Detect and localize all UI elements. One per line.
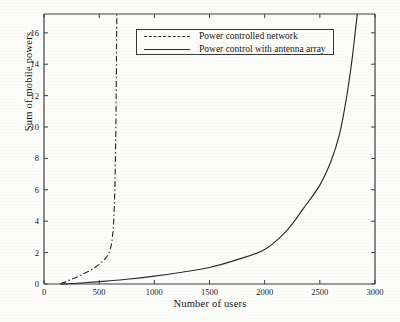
x-tick-label: 1000 — [146, 287, 163, 297]
legend-label: Power controlled network — [199, 30, 298, 43]
x-tick-label: 500 — [93, 287, 106, 297]
x-tick-label: 0 — [42, 287, 46, 297]
y-tick-label: 2 — [14, 248, 39, 258]
x-tick-label: 3000 — [367, 287, 384, 297]
figure-canvas: 0246810121416 050010001500200025003000 N… — [0, 0, 400, 322]
chart-legend: Power controlled network Power control w… — [136, 29, 334, 55]
legend-entry-power-control-antenna-array: Power control with antenna array — [137, 43, 333, 56]
series-power-controlled-network — [61, 14, 117, 284]
x-tick-label: 2000 — [256, 287, 273, 297]
y-tick-label: 4 — [14, 216, 39, 226]
legend-solid-line-icon — [144, 49, 190, 51]
y-tick-label: 0 — [14, 279, 39, 289]
legend-dashdot-line-icon — [144, 36, 190, 38]
y-tick-label: 6 — [14, 185, 39, 195]
legend-label: Power control with antenna array — [199, 43, 326, 56]
x-axis-title: Number of users — [44, 298, 376, 309]
y-axis-title: Sum of mobile powers — [23, 2, 34, 162]
x-tick-label: 2500 — [311, 287, 328, 297]
legend-entry-power-controlled-network: Power controlled network — [137, 30, 333, 43]
x-tick-label: 1500 — [201, 287, 218, 297]
